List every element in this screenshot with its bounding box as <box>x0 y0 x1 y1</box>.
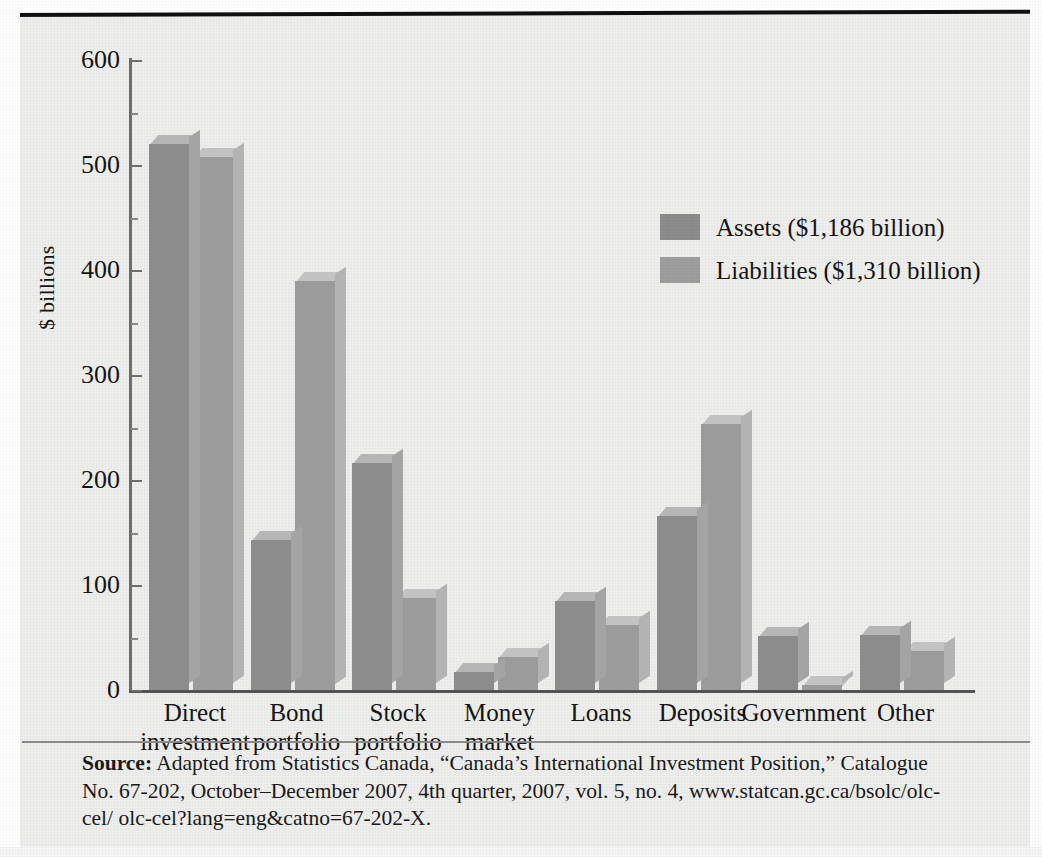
y-tick-label: 100 <box>50 572 120 598</box>
bar-assets <box>657 516 697 690</box>
y-axis-title: $ billions <box>34 245 60 330</box>
bar-side-face <box>291 526 302 683</box>
chart-legend: Assets ($1,186 billion) Liabilities ($1,… <box>660 214 981 300</box>
bar-liabilities <box>802 685 842 690</box>
y-tick-label: 300 <box>50 362 120 388</box>
bar-assets <box>352 463 392 690</box>
y-tick-label: 0 <box>50 677 120 703</box>
y-tick-label: 500 <box>50 152 120 178</box>
bar-side-face <box>639 611 650 683</box>
bar-assets <box>860 635 900 690</box>
legend-item-liabilities: Liabilities ($1,310 billion) <box>660 257 981 283</box>
bar-chart: 0100200300400500600 $ billions Directinv… <box>0 0 1042 857</box>
y-tick-label: 200 <box>50 467 120 493</box>
bar-side-face <box>392 449 403 683</box>
bar-front-face <box>555 601 595 690</box>
legend-swatch-assets <box>660 214 700 240</box>
x-category-label: Other <box>826 698 986 727</box>
source-divider <box>22 741 1030 743</box>
y-tick-label: 600 <box>50 47 120 73</box>
legend-swatch-liabilities <box>660 257 700 283</box>
bar-side-face <box>595 587 606 683</box>
bar-assets <box>758 636 798 690</box>
bar-side-face <box>842 671 853 683</box>
source-note-line-1: Adapted from Statistics Canada, “Canada’… <box>152 751 928 775</box>
y-tick-label: 400 <box>50 257 120 283</box>
bar-assets <box>251 540 291 690</box>
bar-front-face <box>352 463 392 690</box>
bar-assets <box>555 601 595 690</box>
source-note-label: Source: <box>82 751 152 775</box>
bar-side-face <box>335 266 346 683</box>
x-axis-line <box>129 690 975 693</box>
bar-front-face <box>657 516 697 690</box>
source-note-line-3: olc-cel?lang=eng&catno=67-202-X. <box>118 806 431 830</box>
bar-side-face <box>697 502 708 683</box>
bar-front-face <box>758 636 798 690</box>
bar-front-face <box>251 540 291 690</box>
bar-front-face <box>802 685 842 690</box>
bar-side-face <box>798 622 809 683</box>
bar-front-face <box>860 635 900 690</box>
bar-side-face <box>538 643 549 683</box>
bar-side-face <box>436 583 447 683</box>
bar-side-face <box>233 142 244 683</box>
figure-page: 0100200300400500600 $ billions Directinv… <box>0 0 1042 857</box>
source-note: Source: Adapted from Statistics Canada, … <box>82 750 962 833</box>
plot-area <box>130 60 970 690</box>
bar-assets <box>454 672 494 690</box>
bar-side-face <box>189 130 200 683</box>
y-axis-tick-labels: 0100200300400500600 <box>48 0 120 760</box>
legend-item-assets: Assets ($1,186 billion) <box>660 214 981 240</box>
bar-front-face <box>149 144 189 690</box>
bar-side-face <box>900 621 911 683</box>
legend-label-assets: Assets ($1,186 billion) <box>716 215 944 240</box>
bar-front-face <box>454 672 494 690</box>
bar-assets <box>149 144 189 690</box>
y-tick-major <box>131 690 142 692</box>
legend-label-liabilities: Liabilities ($1,310 billion) <box>716 258 981 283</box>
bar-side-face <box>944 637 955 683</box>
bar-side-face <box>741 410 752 683</box>
